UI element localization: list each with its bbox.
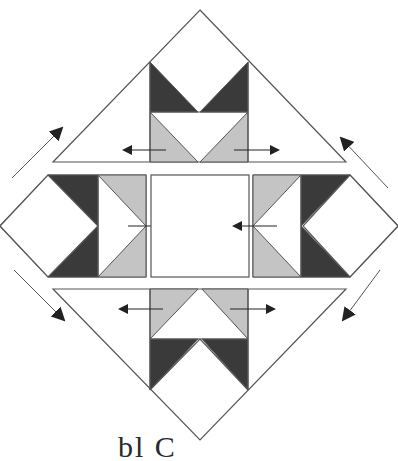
sew-arrow-up-right-icon — [12, 128, 62, 178]
top-triangle-outline — [53, 10, 346, 162]
bottom-triangle-outline — [53, 289, 346, 440]
left-unit — [0, 175, 170, 277]
caption-text: bl C — [118, 430, 177, 461]
right-unit — [234, 175, 398, 277]
middle-row — [0, 175, 398, 277]
bottom-setting-triangle — [53, 289, 346, 440]
top-setting-triangle — [53, 10, 346, 162]
